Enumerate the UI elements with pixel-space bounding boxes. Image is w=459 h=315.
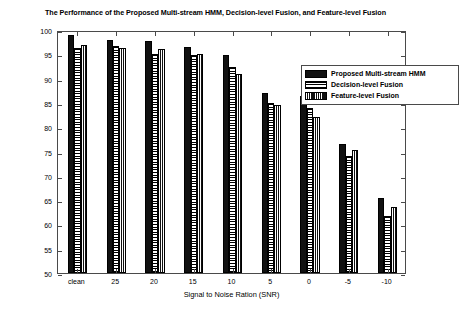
legend-swatch [305, 70, 327, 78]
legend-label: Decision-level Fusion [331, 81, 403, 89]
y-tick-mark [401, 275, 405, 276]
y-tick-mark [401, 129, 405, 130]
y-tick-mark [58, 32, 62, 33]
chart-title: The Performance of the Proposed Multi-st… [0, 8, 431, 17]
y-tick-mark [58, 251, 62, 252]
y-tick-mark [58, 105, 62, 106]
x-tick-label: -10 [382, 278, 392, 285]
legend-swatch [305, 81, 327, 89]
legend-label: Proposed Multi-stream HMM [331, 70, 426, 78]
bar [81, 45, 87, 273]
x-tick-mark [233, 32, 234, 36]
y-tick-label: 100 [18, 28, 52, 35]
bar [274, 105, 280, 273]
x-tick-mark [77, 32, 78, 36]
x-tick-mark [155, 269, 156, 273]
x-tick-mark [194, 269, 195, 273]
x-tick-mark [349, 269, 350, 273]
y-tick-label: 65 [18, 198, 52, 205]
y-tick-label: 90 [18, 76, 52, 83]
x-tick-mark [77, 269, 78, 273]
x-tick-mark [116, 269, 117, 273]
y-tick-mark [401, 56, 405, 57]
bar [236, 74, 242, 273]
x-axis-label: Signal to Noise Ration (SNR) [57, 290, 406, 299]
legend-swatch [305, 92, 327, 100]
y-tick-mark [401, 202, 405, 203]
x-tick-mark [310, 32, 311, 36]
x-tick-mark [194, 32, 195, 36]
x-tick-label: 0 [307, 278, 311, 285]
plot-area: Proposed Multi-stream HMMDecision-level … [57, 31, 406, 274]
bar [158, 49, 164, 273]
x-tick-mark [116, 32, 117, 36]
x-tick-label: -5 [345, 278, 351, 285]
y-tick-mark [58, 226, 62, 227]
y-tick-mark [401, 154, 405, 155]
x-tick-mark [233, 269, 234, 273]
y-tick-label: 95 [18, 52, 52, 59]
bar [119, 48, 125, 274]
x-tick-label: clean [68, 278, 85, 285]
y-tick-mark [58, 129, 62, 130]
y-tick-label: 50 [18, 271, 52, 278]
y-tick-mark [401, 251, 405, 252]
y-tick-label: 70 [18, 173, 52, 180]
x-tick-mark [155, 32, 156, 36]
y-tick-label: 55 [18, 246, 52, 253]
bar [313, 117, 319, 273]
x-tick-mark [388, 269, 389, 273]
bar [391, 207, 397, 273]
x-tick-label: 15 [189, 278, 197, 285]
chart-legend: Proposed Multi-stream HMMDecision-level … [301, 65, 459, 105]
x-tick-mark [271, 269, 272, 273]
x-tick-mark [310, 269, 311, 273]
y-tick-mark [401, 32, 405, 33]
bar [197, 54, 203, 273]
y-tick-label: 60 [18, 222, 52, 229]
x-tick-mark [271, 32, 272, 36]
x-tick-label: 25 [111, 278, 119, 285]
legend-label: Feature-level Fusion [331, 92, 399, 100]
y-tick-mark [58, 202, 62, 203]
y-tick-label: 85 [18, 100, 52, 107]
y-tick-mark [401, 178, 405, 179]
y-tick-label: 75 [18, 149, 52, 156]
x-tick-label: 10 [228, 278, 236, 285]
legend-item: Feature-level Fusion [305, 91, 455, 101]
y-tick-mark [58, 154, 62, 155]
y-tick-mark [58, 81, 62, 82]
y-tick-mark [58, 56, 62, 57]
x-tick-label: 20 [150, 278, 158, 285]
legend-item: Decision-level Fusion [305, 80, 455, 90]
y-tick-mark [401, 105, 405, 106]
x-tick-mark [349, 32, 350, 36]
y-tick-mark [58, 178, 62, 179]
y-tick-label: 80 [18, 125, 52, 132]
legend-item: Proposed Multi-stream HMM [305, 69, 455, 79]
x-tick-mark [388, 32, 389, 36]
x-tick-label: 5 [268, 278, 272, 285]
y-tick-mark [58, 275, 62, 276]
y-tick-mark [401, 226, 405, 227]
bar [352, 150, 358, 273]
